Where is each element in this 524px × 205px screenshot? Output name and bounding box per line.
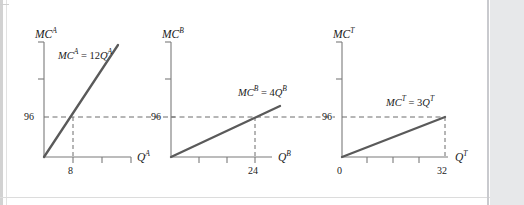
panel-a-graphic [0,0,175,205]
panel-b-quantity-tick-label: 24 [248,166,258,176]
panel-b-y-axis-title: MCB [162,27,184,40]
panel-c-x-axis-title: QT [455,150,467,163]
panel-b-equation-label: MCB = 4QB [238,85,287,98]
figure-root: MCA MCA = 12QA 96 8 QA MCB MCB = 4QB 96 … [0,0,524,205]
panel-c-price-tick-label: 96 [322,112,332,122]
panel-c-mc-curve [342,117,445,157]
panel-a-price-tick-label: 96 [24,112,34,122]
panel-c-equation-label: MCT = 3QT [386,95,434,108]
panel-b-mc-curve [171,106,280,157]
panel-c-origin-label: 0 [337,166,342,176]
panel-a-y-axis-title: MCA [35,27,57,40]
panel-c-quantity-tick-label: 32 [437,166,447,176]
panel-a-x-axis-title: QA [137,150,150,163]
panel-a-mc-curve [44,45,118,157]
panel-a-quantity-tick-label: 8 [68,166,73,176]
panel-b-x-axis-title: QB [278,150,291,163]
panel-b-price-tick-label: 96 [151,112,161,122]
chart-panel-c: MCT MCT = 3QT 96 0 32 QT [320,0,520,205]
panel-c-y-axis-title: MCT [333,27,354,40]
chart-panel-a: MCA MCA = 12QA 96 8 QA [0,0,175,205]
panel-a-equation-label: MCA = 12QA [58,48,112,61]
chart-panel-b: MCB MCB = 4QB 96 24 QB [160,0,335,205]
